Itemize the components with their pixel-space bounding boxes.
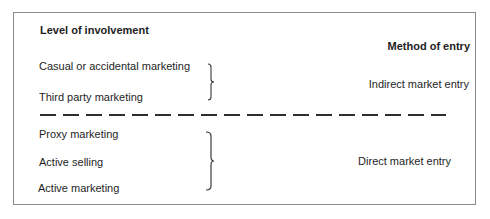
brace-direct-icon: [206, 132, 214, 190]
brace-indirect-icon: [208, 64, 214, 100]
diagram-lines: [0, 0, 490, 219]
